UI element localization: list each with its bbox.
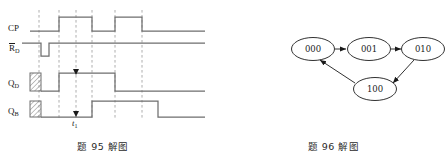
timing-waveform-svg bbox=[0, 0, 222, 135]
arrow-marker-qb bbox=[73, 111, 79, 117]
arrow-marker-qd bbox=[73, 69, 79, 75]
time-marker-t1: t1 bbox=[72, 118, 77, 128]
waveform-qb-unknown-hatch bbox=[30, 101, 41, 117]
signal-subscript-qd: D bbox=[15, 82, 20, 89]
waveform-rd bbox=[22, 43, 205, 56]
state-node-001-label: 001 bbox=[361, 44, 377, 54]
waveform-qb bbox=[41, 101, 205, 117]
state-diagram-svg: 000 001 010 100 bbox=[222, 0, 445, 135]
figure-96-state-diagram: 000 001 010 100 题 96 解图 bbox=[222, 0, 445, 167]
signal-subscript-qb: B bbox=[15, 110, 19, 117]
state-node-000-label: 000 bbox=[305, 44, 321, 54]
state-edge-010-to-100 bbox=[393, 60, 414, 83]
waveform-qd-unknown-hatch bbox=[30, 73, 41, 91]
state-node-010-label: 010 bbox=[415, 44, 431, 54]
waveform-qd bbox=[41, 73, 205, 91]
waveform-cp bbox=[30, 17, 205, 31]
figure-96-caption: 题 96 解图 bbox=[222, 139, 445, 153]
signal-label-cp: CP bbox=[8, 24, 19, 33]
grid-dashed-lines bbox=[39, 10, 142, 120]
figure-page: CP RD QD QB t1 题 95 解图 000 bbox=[0, 0, 445, 167]
figure-95-timing-diagram: CP RD QD QB t1 题 95 解图 bbox=[0, 0, 222, 167]
signal-label-qd: QD bbox=[8, 79, 19, 88]
signal-subscript-rd: D bbox=[15, 47, 20, 54]
state-node-100-label: 100 bbox=[367, 84, 383, 94]
state-edge-100-to-000 bbox=[320, 60, 355, 83]
signal-label-rd: RD bbox=[9, 44, 20, 53]
signal-label-qb: QB bbox=[8, 107, 19, 116]
figure-95-caption: 题 95 解图 bbox=[0, 139, 214, 153]
